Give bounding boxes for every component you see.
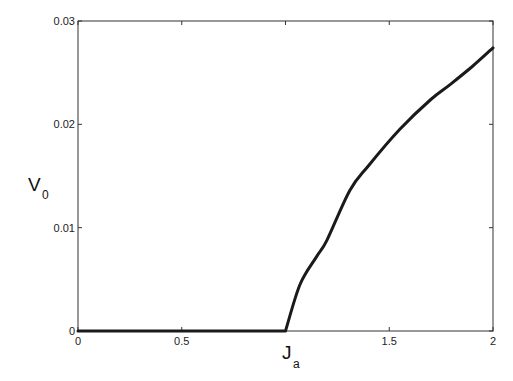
y-tick-label: 0.01 — [54, 222, 75, 234]
x-tick-label: 2 — [490, 335, 496, 347]
x-axis-ticks: 00.51.52 — [75, 21, 496, 347]
y-tick-label: 0.03 — [54, 15, 75, 27]
y-axis-label-sub: 0 — [42, 188, 49, 202]
v0-curve — [78, 48, 493, 331]
chart: 00.51.52 00.010.020.03 V 0 J a — [0, 0, 513, 381]
x-tick-label: 0.5 — [174, 335, 189, 347]
x-tick-label: 1.5 — [382, 335, 397, 347]
x-tick-label: 0 — [75, 335, 81, 347]
y-axis-label-main: V — [28, 174, 41, 195]
y-tick-label: 0 — [69, 325, 75, 337]
x-axis-label: J a — [282, 342, 300, 371]
y-axis-label: V 0 — [28, 174, 49, 202]
y-axis-ticks: 00.010.020.03 — [54, 15, 493, 337]
plot-area — [78, 21, 493, 331]
y-tick-label: 0.02 — [54, 118, 75, 130]
x-axis-label-main: J — [282, 342, 292, 363]
x-axis-label-sub: a — [293, 357, 300, 371]
